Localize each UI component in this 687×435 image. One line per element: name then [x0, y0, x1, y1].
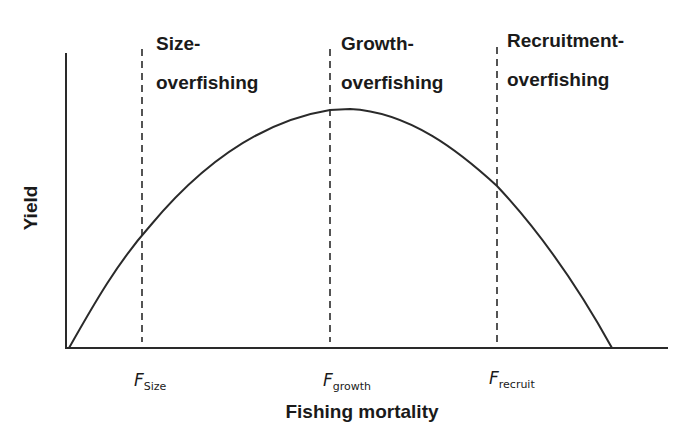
tick-sub-f-size: Size — [144, 380, 167, 393]
x-axis-title: Fishing mortality — [285, 401, 439, 422]
region-label-size-line1: Size- — [156, 33, 200, 54]
region-label-growth-line2: overfishing — [341, 72, 443, 93]
region-label-size-line2: overfishing — [156, 72, 258, 93]
yield-diagram: Size- overfishing Growth- overfishing Re… — [0, 0, 687, 435]
tick-sub-f-growth: growth — [333, 380, 371, 393]
region-label-recruit-line2: overfishing — [507, 69, 609, 90]
yield-curve — [69, 109, 612, 348]
tick-label-f-recruit: Frecruit — [489, 368, 535, 391]
tick-sub-f-recruit: recruit — [499, 378, 536, 391]
region-label-recruit-line1: Recruitment- — [507, 30, 624, 51]
tick-main-f-growth: F — [323, 370, 333, 390]
tick-main-f-size: F — [134, 370, 144, 390]
tick-label-f-size: FSize — [134, 370, 167, 393]
y-axis-title: Yield — [20, 186, 41, 231]
tick-main-f-recruit: F — [489, 368, 499, 388]
region-label-growth-line1: Growth- — [341, 33, 414, 54]
tick-label-f-growth: Fgrowth — [323, 370, 371, 393]
